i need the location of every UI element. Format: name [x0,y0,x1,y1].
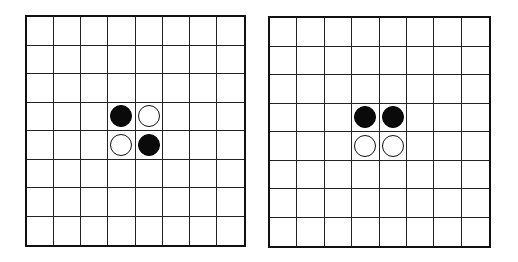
board-square[interactable] [136,188,163,217]
board-square[interactable] [54,160,81,189]
board-square[interactable] [352,18,379,47]
board-square[interactable] [163,46,190,75]
board-square[interactable] [217,160,244,189]
board-square[interactable] [163,188,190,217]
board-square[interactable] [136,217,163,246]
board-square[interactable] [434,161,461,190]
board-square[interactable] [27,74,54,103]
board-square[interactable] [325,132,352,161]
board-square[interactable] [217,17,244,46]
board-square[interactable] [325,104,352,133]
board-square[interactable] [462,218,489,247]
board-square[interactable] [136,131,163,160]
board-square[interactable] [325,75,352,104]
board-square[interactable] [81,46,108,75]
board-square[interactable] [136,103,163,132]
board-square[interactable] [136,160,163,189]
board-square[interactable] [190,188,217,217]
board-square[interactable] [434,218,461,247]
board-square[interactable] [190,74,217,103]
board-square[interactable] [190,46,217,75]
board-square[interactable] [352,218,379,247]
board-square[interactable] [325,189,352,218]
board-square[interactable] [108,131,135,160]
board-square[interactable] [462,18,489,47]
board-square[interactable] [297,132,324,161]
board-square[interactable] [380,218,407,247]
board-square[interactable] [54,188,81,217]
board-square[interactable] [108,160,135,189]
board-square[interactable] [407,47,434,76]
board-square[interactable] [270,104,297,133]
board-square[interactable] [352,132,379,161]
board-square[interactable] [434,132,461,161]
board-square[interactable] [434,104,461,133]
board-square[interactable] [108,17,135,46]
board-square[interactable] [270,189,297,218]
board-square[interactable] [108,103,135,132]
board-square[interactable] [380,132,407,161]
board-square[interactable] [407,75,434,104]
board-square[interactable] [217,46,244,75]
board-square[interactable] [407,189,434,218]
board-square[interactable] [27,217,54,246]
board-square[interactable] [81,74,108,103]
board-square[interactable] [190,103,217,132]
board-square[interactable] [81,103,108,132]
board-square[interactable] [136,17,163,46]
board-square[interactable] [217,74,244,103]
board-square[interactable] [325,47,352,76]
board-square[interactable] [270,47,297,76]
board-square[interactable] [407,218,434,247]
board-square[interactable] [27,46,54,75]
board-square[interactable] [380,75,407,104]
board-square[interactable] [27,17,54,46]
board-square[interactable] [352,75,379,104]
board-square[interactable] [270,132,297,161]
board-square[interactable] [297,104,324,133]
board-square[interactable] [54,17,81,46]
board-square[interactable] [27,103,54,132]
board-square[interactable] [108,74,135,103]
board-square[interactable] [190,217,217,246]
board-square[interactable] [462,104,489,133]
board-square[interactable] [380,104,407,133]
board-square[interactable] [190,160,217,189]
board-square[interactable] [352,161,379,190]
board-square[interactable] [380,18,407,47]
board-square[interactable] [297,189,324,218]
board-square[interactable] [217,103,244,132]
board-square[interactable] [325,218,352,247]
board-square[interactable] [270,75,297,104]
board-square[interactable] [81,131,108,160]
board-square[interactable] [325,161,352,190]
board-square[interactable] [163,160,190,189]
board-square[interactable] [434,47,461,76]
board-square[interactable] [108,188,135,217]
board-square[interactable] [380,189,407,218]
board-square[interactable] [434,189,461,218]
board-square[interactable] [380,161,407,190]
board-square[interactable] [54,74,81,103]
board-square[interactable] [163,217,190,246]
board-square[interactable] [407,18,434,47]
board-square[interactable] [297,161,324,190]
board-square[interactable] [407,132,434,161]
board-square[interactable] [81,217,108,246]
board-square[interactable] [54,46,81,75]
board-square[interactable] [81,17,108,46]
board-square[interactable] [407,104,434,133]
board-square[interactable] [352,189,379,218]
board-square[interactable] [217,188,244,217]
board-square[interactable] [163,74,190,103]
board-square[interactable] [163,17,190,46]
board-square[interactable] [217,131,244,160]
board-square[interactable] [27,131,54,160]
board-square[interactable] [462,132,489,161]
board-square[interactable] [297,75,324,104]
board-square[interactable] [190,17,217,46]
board-square[interactable] [163,131,190,160]
board-square[interactable] [297,18,324,47]
board-square[interactable] [434,75,461,104]
board-square[interactable] [297,218,324,247]
